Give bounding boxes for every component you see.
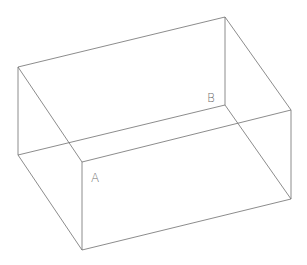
edge-bottom-front-to-bottom-left (18, 155, 82, 250)
edge-top-back-to-top-right (225, 17, 291, 110)
edge-bottom-right-to-bottom-front (82, 199, 291, 250)
box-edges (18, 17, 291, 250)
vertex-label-a: A (91, 171, 99, 185)
edge-bottom-back-to-bottom-right (225, 105, 291, 199)
vertex-label-b: B (207, 91, 215, 105)
edge-top-left-to-top-back (18, 17, 225, 67)
box-diagram: A B (0, 0, 307, 265)
edge-top-front-to-top-left (18, 67, 82, 162)
